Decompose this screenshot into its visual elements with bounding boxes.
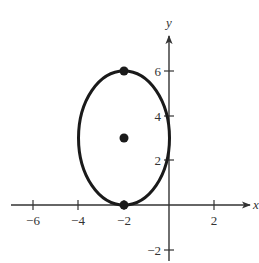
x-tick-label: −2 xyxy=(117,213,131,228)
y-tick-label: 6 xyxy=(155,64,162,79)
ellipse-graph: x y −6 −4 −2 2 6 4 2 −2 xyxy=(0,0,259,263)
x-tick-label: −6 xyxy=(26,213,40,228)
y-tick-label: 2 xyxy=(155,153,162,168)
x-tick-label: −4 xyxy=(71,213,85,228)
x-axis-label: x xyxy=(252,197,259,212)
y-ticks: 6 4 2 −2 xyxy=(147,64,174,258)
vertex-top-point xyxy=(120,67,129,76)
y-tick-label: 4 xyxy=(155,109,162,124)
x-tick-label: 2 xyxy=(211,213,218,228)
y-axis-label: y xyxy=(164,15,172,30)
y-tick-label: −2 xyxy=(147,243,161,258)
center-point xyxy=(120,134,129,143)
vertex-bottom-point xyxy=(120,201,129,210)
